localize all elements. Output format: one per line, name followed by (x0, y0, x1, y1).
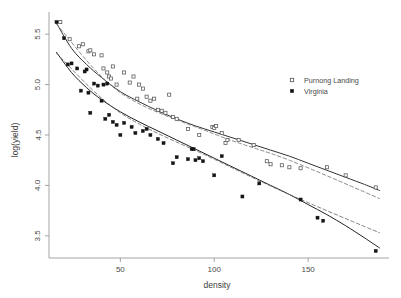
data-point (198, 133, 201, 136)
data-point (106, 71, 109, 74)
data-point (156, 137, 159, 140)
y-tick-label: 5.5 (34, 28, 43, 40)
data-point (201, 160, 204, 163)
data-point (171, 115, 174, 118)
data-point (76, 67, 79, 70)
data-point (81, 43, 84, 46)
data-point (130, 125, 133, 128)
data-point (149, 99, 152, 102)
data-point (59, 21, 62, 24)
data-point (316, 216, 319, 219)
y-tick-label: 4.5 (34, 129, 43, 141)
data-point (213, 174, 216, 177)
data-point (85, 68, 88, 71)
data-point (89, 111, 92, 114)
data-point (62, 37, 65, 40)
data-point (68, 38, 71, 41)
chart-figure: 50100150 3.54.04.55.05.5 density log(yie… (0, 0, 401, 298)
data-point (128, 81, 131, 84)
data-point (93, 82, 96, 85)
data-point (299, 198, 302, 201)
data-point (226, 138, 229, 141)
data-point (162, 142, 165, 145)
data-point (79, 89, 82, 92)
y-tick-label: 4.0 (34, 179, 43, 191)
data-point (102, 83, 105, 86)
y-axis-title: log(yield) (10, 123, 20, 158)
data-point (215, 124, 218, 127)
data-point (134, 131, 137, 134)
data-point (145, 127, 148, 130)
data-point (220, 155, 223, 158)
data-point (141, 129, 144, 132)
data-point (258, 182, 261, 185)
data-point (153, 97, 156, 100)
data-point (55, 21, 58, 24)
data-point (100, 99, 103, 102)
data-point (192, 148, 195, 151)
legend-marker-filled-square-icon (290, 89, 293, 92)
data-point (66, 63, 69, 66)
data-point (194, 159, 197, 162)
x-tick-label: 100 (208, 265, 222, 274)
data-point (164, 111, 167, 114)
data-point (123, 71, 126, 74)
data-point (145, 95, 148, 98)
x-axis-title: density (204, 280, 232, 290)
data-point (198, 157, 201, 160)
data-point (252, 144, 255, 147)
data-point (175, 156, 178, 159)
data-point (132, 75, 135, 78)
data-point (77, 45, 80, 48)
data-point (93, 53, 96, 56)
data-point (322, 219, 325, 222)
data-point (156, 108, 159, 111)
scatter-plot-canvas: 50100150 3.54.04.55.05.5 density log(yie… (0, 0, 401, 298)
data-point (136, 97, 139, 100)
data-point (102, 67, 105, 70)
data-point (108, 113, 111, 116)
data-point (70, 62, 73, 65)
data-point (175, 117, 178, 120)
data-point (111, 65, 114, 68)
data-point (160, 109, 163, 112)
data-point (344, 174, 347, 177)
x-tick-label: 150 (301, 265, 315, 274)
data-point (115, 123, 118, 126)
data-point (241, 195, 244, 198)
data-point (96, 84, 99, 87)
data-point (119, 133, 122, 136)
data-point (100, 54, 103, 57)
data-point (111, 120, 114, 123)
data-point (374, 186, 377, 189)
data-point (87, 91, 90, 94)
legend-label: Purnong Landing (304, 76, 359, 85)
data-point (106, 82, 109, 85)
data-point (269, 163, 272, 166)
data-point (280, 164, 283, 167)
data-point (138, 83, 141, 86)
data-point (141, 87, 144, 90)
y-tick-label: 5.0 (34, 78, 43, 90)
data-point (237, 138, 240, 141)
data-point (220, 131, 223, 134)
data-point (123, 121, 126, 124)
legend-marker-open-square-icon (290, 78, 293, 81)
data-point (115, 83, 118, 86)
data-point (374, 249, 377, 252)
data-point (299, 167, 302, 170)
data-point (104, 117, 107, 120)
data-point (149, 133, 152, 136)
data-point (224, 142, 227, 145)
y-tick-label: 3.5 (34, 230, 43, 242)
data-point (168, 93, 171, 96)
data-point (288, 166, 291, 169)
data-point (89, 49, 92, 52)
data-point (186, 127, 189, 130)
x-tick-label: 50 (116, 265, 125, 274)
data-point (109, 77, 112, 80)
legend-label: Virginia (304, 87, 328, 96)
data-point (186, 158, 189, 161)
data-point (171, 162, 174, 165)
data-point (325, 166, 328, 169)
